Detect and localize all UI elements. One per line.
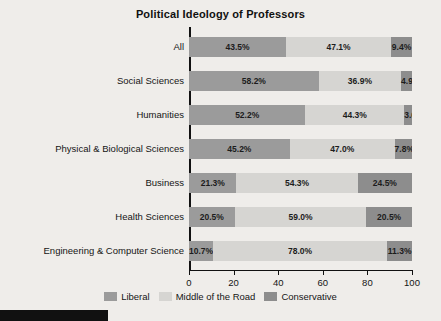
legend-label: Liberal	[121, 291, 150, 302]
x-axis-tick-label: 100	[404, 277, 420, 288]
bar-segment-middle: 44.3%	[305, 105, 404, 125]
x-axis-tick	[234, 270, 235, 275]
category-label: Social Sciences	[117, 71, 184, 91]
bar-segment-conservative: 9.4%	[391, 37, 412, 57]
legend-label: Middle of the Road	[176, 291, 256, 302]
category-label: Physical & Biological Sciences	[55, 139, 184, 159]
category-label: Engineering & Computer Science	[44, 241, 184, 261]
bar-segment-conservative: 24.5%	[358, 173, 412, 193]
x-axis-tick	[278, 270, 279, 275]
bar-segment-middle: 59.0%	[235, 207, 367, 227]
bar-segment-conservative: 11.3%	[387, 241, 412, 261]
bar-segment-liberal: 45.2%	[189, 139, 290, 159]
page-title: Political Ideology of Professors	[0, 8, 441, 20]
bar-segment-middle: 36.9%	[319, 71, 401, 91]
stacked-bar: 45.2%47.0%7.8%	[189, 139, 412, 159]
bar-row: Social Sciences58.2%36.9%4.9%	[189, 64, 412, 98]
legend-swatch-icon	[159, 292, 172, 301]
x-axis-tick	[367, 270, 368, 275]
x-axis-tick-label: 20	[228, 277, 239, 288]
category-label: Business	[145, 173, 184, 193]
bar-segment-middle: 78.0%	[213, 241, 387, 261]
x-axis-tick-label: 60	[318, 277, 329, 288]
bar-segment-liberal: 52.2%	[189, 105, 305, 125]
category-label: All	[173, 37, 184, 57]
stacked-bar: 52.2%44.3%3.6%	[189, 105, 412, 125]
stacked-bar: 20.5%59.0%20.5%	[189, 207, 412, 227]
bar-segment-liberal: 43.5%	[189, 37, 286, 57]
legend-item: Liberal	[104, 291, 150, 302]
bar-segment-middle: 47.1%	[286, 37, 391, 57]
bar-segment-conservative: 3.6%	[404, 105, 412, 125]
stacked-bar: 21.3%54.3%24.5%	[189, 173, 412, 193]
category-label: Humanities	[136, 105, 184, 125]
legend-swatch-icon	[264, 292, 277, 301]
legend-label: Conservative	[281, 291, 336, 302]
bar-row: Humanities52.2%44.3%3.6%	[189, 98, 412, 132]
x-axis-tick-label: 0	[186, 277, 191, 288]
bar-segment-liberal: 21.3%	[189, 173, 236, 193]
stacked-bar: 58.2%36.9%4.9%	[189, 71, 412, 91]
bar-segment-middle: 47.0%	[290, 139, 395, 159]
bar-row: All43.5%47.1%9.4%	[189, 30, 412, 64]
bar-segment-liberal: 10.7%	[189, 241, 213, 261]
bar-segment-liberal: 58.2%	[189, 71, 319, 91]
legend-item: Conservative	[264, 291, 336, 302]
bar-segment-conservative: 20.5%	[366, 207, 412, 227]
chart-page: Political Ideology of Professors All43.5…	[0, 0, 441, 321]
stacked-bar: 43.5%47.1%9.4%	[189, 37, 412, 57]
legend-swatch-icon	[104, 292, 117, 301]
bar-row: Engineering & Computer Science10.7%78.0%…	[189, 234, 412, 268]
bar-segment-conservative: 4.9%	[401, 71, 412, 91]
x-axis-tick	[323, 270, 324, 275]
bar-segment-conservative: 7.8%	[395, 139, 412, 159]
category-label: Health Sciences	[115, 207, 184, 227]
bar-row: Health Sciences20.5%59.0%20.5%	[189, 200, 412, 234]
bar-row: Business21.3%54.3%24.5%	[189, 166, 412, 200]
bar-row: Physical & Biological Sciences45.2%47.0%…	[189, 132, 412, 166]
x-axis-tick-label: 80	[362, 277, 373, 288]
legend-item: Middle of the Road	[159, 291, 256, 302]
x-axis-tick-label: 40	[273, 277, 284, 288]
plot-area: All43.5%47.1%9.4%Social Sciences58.2%36.…	[189, 30, 412, 270]
x-axis-tick	[189, 270, 190, 275]
x-axis-tick	[412, 270, 413, 275]
bar-segment-middle: 54.3%	[236, 173, 357, 193]
x-axis-line: 020406080100	[189, 270, 413, 271]
page-corner-artifact	[0, 310, 108, 321]
chart-legend: LiberalMiddle of the RoadConservative	[0, 291, 441, 302]
bar-segment-liberal: 20.5%	[189, 207, 235, 227]
stacked-bar: 10.7%78.0%11.3%	[189, 241, 412, 261]
